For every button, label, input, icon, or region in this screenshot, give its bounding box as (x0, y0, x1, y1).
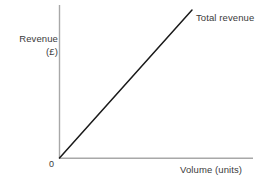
chart-plot-area (0, 0, 262, 183)
y-axis-unit-text: (£) (0, 46, 58, 57)
series-label-total-revenue: Total revenue (196, 12, 254, 23)
y-axis-label: Revenue (£) (0, 33, 58, 57)
revenue-volume-chart: Revenue (£) Total revenue Volume (units)… (0, 0, 262, 183)
y-axis-label-text: Revenue (19, 33, 58, 44)
total-revenue-line (60, 10, 193, 158)
origin-label: 0 (49, 159, 54, 170)
x-axis-label: Volume (units) (180, 164, 242, 175)
